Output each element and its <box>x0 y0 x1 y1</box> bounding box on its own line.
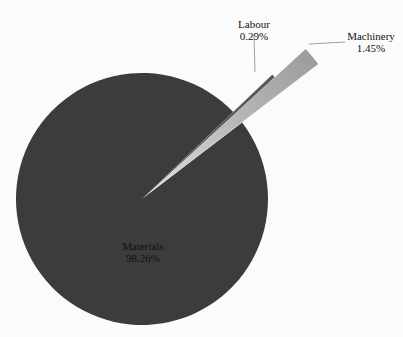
label-materials-value: 98.26% <box>113 252 173 264</box>
label-labour-value: 0.29% <box>232 30 276 42</box>
label-materials: Materials 98.26% <box>113 240 173 264</box>
pie-chart: Labour 0.29% Machinery 1.45% Materials 9… <box>0 0 403 337</box>
label-labour-name: Labour <box>232 18 276 30</box>
label-machinery-name: Machinery <box>340 30 402 42</box>
label-materials-name: Materials <box>113 240 173 252</box>
label-machinery-value: 1.45% <box>340 42 402 54</box>
label-labour: Labour 0.29% <box>232 18 276 42</box>
label-machinery: Machinery 1.45% <box>340 30 402 54</box>
slice-materials <box>16 73 268 325</box>
